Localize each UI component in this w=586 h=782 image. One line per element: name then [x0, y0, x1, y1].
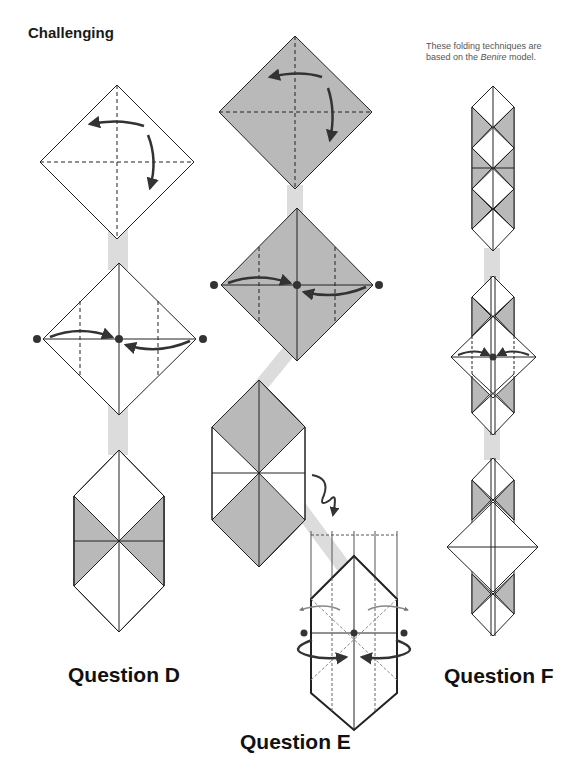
- question-d-step-1: [40, 85, 194, 239]
- question-e-step-1: [219, 36, 372, 189]
- question-d-label: Question D: [68, 663, 180, 687]
- question-f-step-3: [447, 458, 538, 636]
- question-e-step-2: [210, 208, 383, 361]
- question-f-step-2: [451, 276, 536, 435]
- reference-dot-icon: [401, 630, 408, 637]
- reference-dot-icon: [301, 630, 308, 637]
- reference-dot-icon: [351, 630, 358, 637]
- reference-dot-icon: [375, 281, 383, 289]
- reference-dot-icon: [293, 281, 301, 289]
- question-e-step-4: [298, 531, 410, 730]
- reference-dot-icon: [490, 354, 497, 361]
- question-d-step-2: [33, 263, 207, 415]
- question-f-step-1: [472, 86, 514, 251]
- question-e-label: Question E: [240, 730, 351, 754]
- question-d-step-3: [74, 450, 164, 632]
- reference-dot-icon: [115, 335, 123, 343]
- reference-dot-icon: [199, 335, 207, 343]
- reference-dot-icon: [210, 281, 218, 289]
- turn-over-arrow-icon: [312, 475, 335, 515]
- question-f-label: Question F: [444, 664, 554, 688]
- reference-dot-icon: [33, 335, 41, 343]
